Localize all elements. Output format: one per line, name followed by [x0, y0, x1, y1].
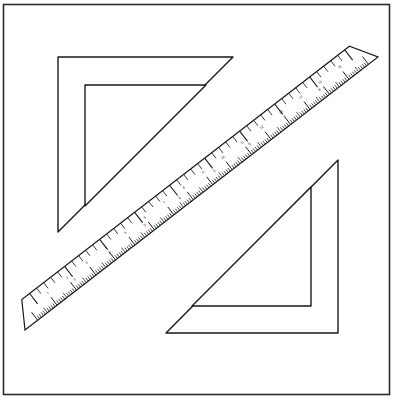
drawing-canvas: 1234567812345678910111213141516	[0, 0, 409, 406]
scene-vector-graphic: 1234567812345678910111213141516	[0, 0, 409, 406]
